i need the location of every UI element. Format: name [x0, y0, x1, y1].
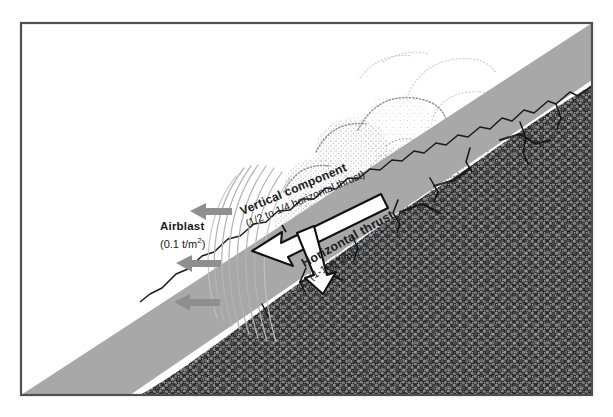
diagram-canvas: [0, 0, 613, 417]
airblast-label-title: Airblast: [160, 220, 205, 234]
airblast-value-text: (0.1 t/m: [160, 237, 197, 249]
airblast-value-tail: ): [202, 237, 206, 249]
airblast-label-value: (0.1 t/m2): [160, 236, 205, 251]
landslide-impact-diagram: Airblast (0.1 t/m2) Vertical component (…: [0, 0, 613, 417]
airblast-label: Airblast (0.1 t/m2): [160, 220, 205, 250]
